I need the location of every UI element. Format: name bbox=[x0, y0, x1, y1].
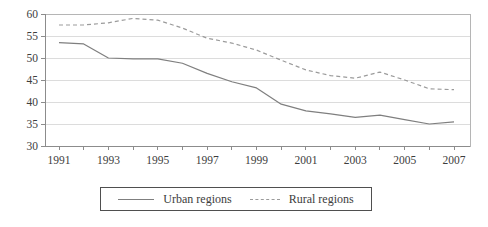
legend: Urban regions Rural regions bbox=[100, 187, 372, 211]
svg-text:60: 60 bbox=[27, 8, 39, 20]
svg-text:1993: 1993 bbox=[97, 154, 120, 166]
legend-item-urban: Urban regions bbox=[118, 192, 231, 207]
svg-text:30: 30 bbox=[27, 140, 39, 152]
svg-text:2005: 2005 bbox=[393, 154, 416, 166]
dashed-line-icon bbox=[250, 199, 280, 200]
svg-text:2003: 2003 bbox=[344, 154, 367, 166]
svg-text:2007: 2007 bbox=[443, 154, 466, 166]
svg-text:55: 55 bbox=[27, 30, 39, 42]
legend-label-urban: Urban regions bbox=[163, 192, 231, 207]
legend-label-rural: Rural regions bbox=[289, 192, 354, 207]
svg-text:1999: 1999 bbox=[245, 154, 268, 166]
svg-text:2001: 2001 bbox=[294, 154, 317, 166]
line-chart: 3035404550556019911993199519971999200120… bbox=[0, 0, 488, 172]
svg-text:1997: 1997 bbox=[196, 154, 219, 166]
svg-text:1995: 1995 bbox=[146, 154, 169, 166]
svg-text:40: 40 bbox=[27, 96, 39, 108]
legend-item-rural: Rural regions bbox=[250, 192, 354, 207]
svg-text:35: 35 bbox=[27, 118, 39, 130]
svg-text:1991: 1991 bbox=[48, 154, 71, 166]
line-chart-figure: 3035404550556019911993199519971999200120… bbox=[0, 0, 488, 227]
svg-text:45: 45 bbox=[27, 74, 39, 86]
solid-line-icon bbox=[118, 199, 154, 200]
svg-text:50: 50 bbox=[27, 52, 39, 64]
